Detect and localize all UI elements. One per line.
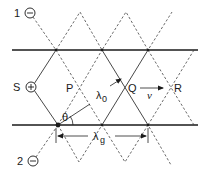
svg-text:λ: λ [93,130,99,142]
point-r-label: R [174,82,182,94]
velocity-label: v [147,89,152,101]
source-2-label: 2 [17,155,23,167]
point-p-label: P [66,82,73,94]
svg-text:0: 0 [102,94,107,104]
svg-text:g: g [100,135,105,145]
dashed-rays [33,12,194,165]
waveguide-diagram: 1 S 2 P Q R v λ 0 θ λ g [0,0,210,178]
source-2: 2 [17,155,38,167]
lambda0-arrow [110,79,121,86]
source-1-label: 1 [14,7,20,19]
source-s-label: S [13,81,20,93]
theta-label: θ [62,111,68,123]
lambda0-label: λ 0 [96,89,107,104]
source-s: S [13,81,36,93]
angle-arc [70,116,73,125]
lambda-g-dimension: λ g [56,128,148,145]
source-1: 1 [14,7,35,19]
point-q-label: Q [128,82,137,94]
